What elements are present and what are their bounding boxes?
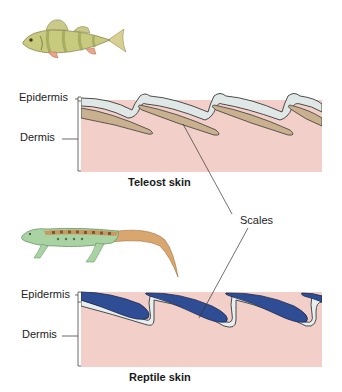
lizard-illustration — [22, 228, 178, 277]
fish-illustration — [23, 20, 126, 58]
teleost-skin-section — [81, 94, 322, 173]
teleost-dermis-label: Dermis — [20, 131, 55, 143]
teleost-caption: Teleost skin — [128, 176, 191, 188]
reptile-skin-section — [81, 292, 322, 367]
reptile-caption: Reptile skin — [129, 371, 191, 383]
teleost-brackets — [62, 97, 81, 171]
scales-label: Scales — [240, 214, 273, 226]
teleost-epidermis-label: Epidermis — [19, 91, 68, 103]
reptile-brackets — [62, 292, 81, 366]
reptile-dermis-label: Dermis — [22, 328, 57, 340]
reptile-epidermis-label: Epidermis — [21, 288, 70, 300]
